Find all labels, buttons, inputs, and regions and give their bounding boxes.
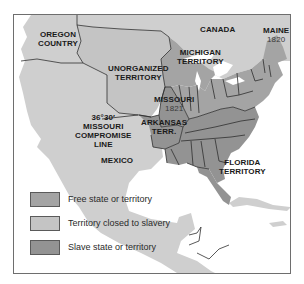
label-canada: CANADA (200, 25, 235, 34)
central-america-borders (189, 227, 229, 259)
legend-swatch-closed (30, 216, 60, 231)
legend-item-closed: Territory closed to slavery (30, 215, 170, 231)
cuba-island (229, 197, 290, 211)
legend-item-slave: Slave state or territory (30, 239, 156, 255)
hispaniola-island (269, 221, 287, 227)
label-oregon-country: OREGON COUNTRY (38, 30, 78, 48)
legend-item-free: Free state or territory (30, 191, 152, 207)
legend-label-free: Free state or territory (68, 194, 152, 204)
map-frame: OREGON COUNTRY CANADA MAINE 1820 MICHIGA… (13, 14, 291, 274)
label-florida-territory: FLORIDA TERRITORY (219, 158, 266, 176)
label-mexico: MEXICO (101, 156, 133, 165)
label-arkansas-territory: ARKANSAS TERR. (141, 118, 187, 136)
legend-label-slave: Slave state or territory (68, 242, 156, 252)
label-maine: MAINE 1820 (263, 26, 289, 44)
legend-label-closed: Territory closed to slavery (68, 218, 170, 228)
label-unorganized-territory: UNORGANIZED TERRITORY (108, 64, 169, 82)
label-missouri-compromise-line: 36°30′ MISSOURI COMPROMISE LINE (75, 113, 132, 149)
legend-swatch-free (30, 192, 60, 207)
legend-swatch-slave (30, 240, 60, 255)
label-michigan-territory: MICHIGAN TERRITORY (177, 48, 224, 66)
map-canvas (14, 15, 290, 273)
label-missouri: MISSOURI 1821 (154, 95, 194, 113)
